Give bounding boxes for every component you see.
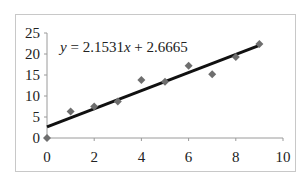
x-tick-label: 0: [43, 149, 51, 165]
data-point-diamond: [185, 62, 193, 70]
y-tick-label: 5: [33, 109, 41, 125]
x-tick-label: 4: [138, 149, 146, 165]
y-tick-label: 15: [25, 67, 40, 83]
y-tick-label: 25: [25, 25, 40, 41]
x-tick-label: 8: [232, 149, 240, 165]
x-tick-label: 10: [276, 149, 291, 165]
trendline-equation: y = 2.1531x + 2.6665: [58, 39, 188, 55]
data-point-diamond: [137, 76, 145, 84]
x-tick-label: 2: [90, 149, 98, 165]
y-tick-label: 20: [25, 46, 40, 62]
scatter-plot: 02468100510152025 y = 2.1531x + 2.6665: [0, 0, 307, 185]
data-point-diamond: [208, 70, 216, 78]
trendline: [47, 45, 259, 126]
y-tick-label: 10: [25, 88, 40, 104]
y-tick-label: 0: [33, 130, 41, 146]
data-point-diamond: [67, 108, 75, 116]
x-tick-label: 6: [185, 149, 193, 165]
data-point-diamond: [43, 134, 51, 142]
trendline-path: [47, 45, 259, 126]
